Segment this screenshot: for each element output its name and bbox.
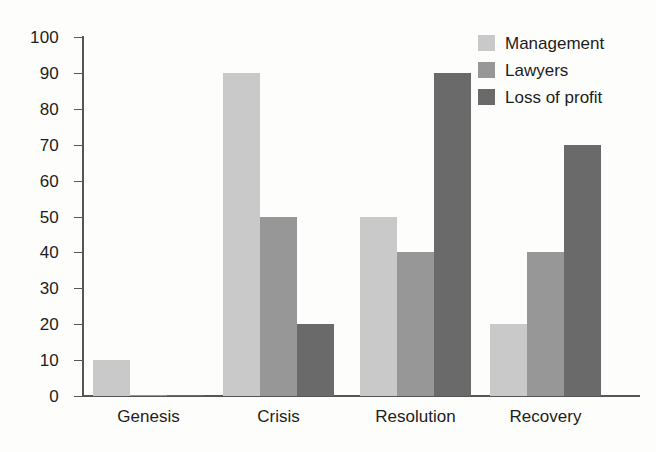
y-tick-mark — [74, 360, 83, 361]
legend-label: Loss of profit — [505, 89, 602, 106]
y-tick-label: 0 — [13, 388, 59, 405]
y-tick-label: 50 — [13, 209, 59, 226]
y-tick-mark — [74, 73, 83, 74]
x-axis-label-recovery: Recovery — [466, 408, 626, 425]
y-tick-mark — [74, 396, 83, 397]
bar-group — [223, 37, 334, 396]
chart-legend: ManagementLawyersLoss of profit — [478, 30, 604, 111]
bar-crisis-lawyers — [260, 217, 297, 397]
bar-genesis-management — [93, 360, 130, 396]
bar-genesis-loss-of-profit — [167, 395, 204, 397]
legend-item: Management — [478, 30, 604, 56]
y-tick-mark — [74, 145, 83, 146]
legend-item: Lawyers — [478, 57, 604, 83]
legend-swatch-icon — [478, 89, 495, 105]
y-tick-label: 30 — [13, 280, 59, 297]
bar-group — [360, 37, 471, 396]
x-axis-label-crisis: Crisis — [199, 408, 359, 425]
y-tick-mark — [74, 37, 83, 38]
y-tick-label: 80 — [13, 101, 59, 118]
legend-swatch-icon — [478, 62, 495, 78]
bar-resolution-management — [360, 217, 397, 397]
y-tick-label: 20 — [13, 316, 59, 333]
y-tick-label: 40 — [13, 244, 59, 261]
bar-recovery-loss-of-profit — [564, 145, 601, 396]
y-tick-label: 10 — [13, 352, 59, 369]
y-tick-mark — [74, 324, 83, 325]
y-tick-label: 60 — [13, 173, 59, 190]
bar-chart: 0102030405060708090100 GenesisCrisisReso… — [0, 0, 656, 452]
y-tick-mark — [74, 217, 83, 218]
bar-resolution-lawyers — [397, 252, 434, 396]
bar-crisis-management — [223, 73, 260, 396]
y-tick-mark — [74, 288, 83, 289]
legend-swatch-icon — [478, 35, 495, 51]
y-tick-label: 90 — [13, 65, 59, 82]
bar-recovery-management — [490, 324, 527, 396]
legend-label: Lawyers — [505, 62, 568, 79]
bar-genesis-lawyers — [130, 395, 167, 397]
y-tick-label: 100 — [13, 29, 59, 46]
legend-label: Management — [505, 35, 604, 52]
legend-item: Loss of profit — [478, 84, 604, 110]
y-tick-mark — [74, 252, 83, 253]
y-tick-mark — [74, 181, 83, 182]
y-tick-label: 70 — [13, 137, 59, 154]
bar-crisis-loss-of-profit — [297, 324, 334, 396]
y-tick-mark — [74, 109, 83, 110]
bar-resolution-loss-of-profit — [434, 73, 471, 396]
bar-recovery-lawyers — [527, 252, 564, 396]
bar-group — [93, 37, 204, 396]
